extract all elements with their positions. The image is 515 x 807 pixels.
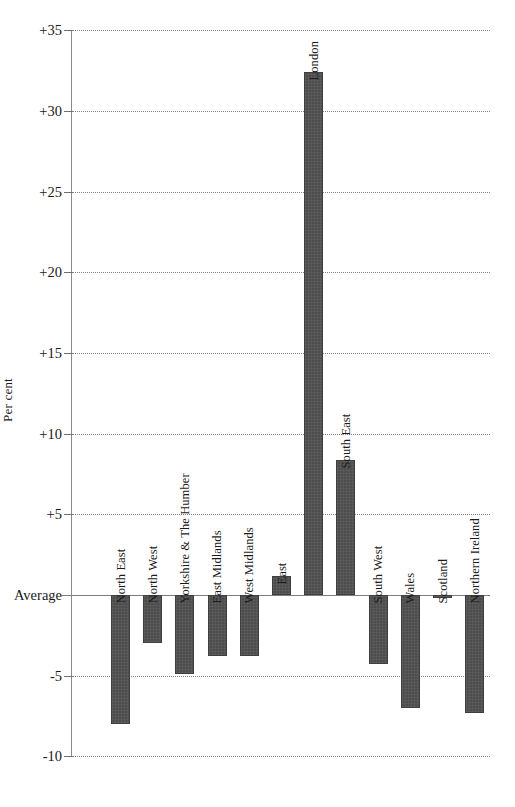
bar-category-label: East Midlands — [211, 530, 224, 603]
bar-category-label: Yorkshire & The Humber — [178, 473, 191, 603]
bar — [401, 595, 420, 708]
bar — [240, 595, 259, 656]
bar-category-label: East — [275, 562, 288, 584]
bar — [336, 460, 355, 595]
bar-category-label: London — [307, 41, 320, 81]
bar-category-label: Scotland — [436, 559, 449, 604]
bar-category-label: West Midlands — [243, 527, 256, 603]
bar-category-label: North West — [146, 546, 159, 604]
bar — [465, 595, 484, 713]
bar-category-label: Wales — [404, 573, 417, 604]
bar — [208, 595, 227, 656]
bar-category-label: South West — [372, 546, 385, 604]
bar — [304, 72, 323, 595]
bar — [111, 595, 130, 724]
bar-category-label: South East — [339, 414, 352, 469]
bar-category-label: Northern Ireland — [468, 518, 481, 603]
bar — [175, 595, 194, 674]
bar — [369, 595, 388, 664]
plot-area: North EastNorth WestYorkshire & The Humb… — [0, 0, 515, 807]
bar-chart: Per cent -10-5Average+5+10+15+20+25+30+3… — [0, 0, 515, 807]
bar-category-label: North East — [114, 549, 127, 604]
